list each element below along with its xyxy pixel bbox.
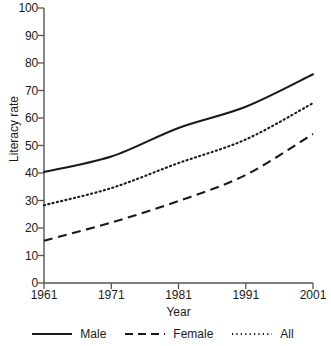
x-tick-label: 1981 — [153, 288, 205, 302]
y-tick-label: 100 — [4, 2, 38, 14]
legend-item-all: All — [231, 328, 293, 340]
legend-swatch-dashed-icon — [124, 329, 166, 339]
legend-label: Female — [173, 328, 213, 340]
legend-label: Male — [80, 328, 106, 340]
legend-item-male: Male — [31, 328, 106, 340]
x-axis-tick-labels: 1961 1971 1981 1991 2001 — [0, 288, 325, 304]
y-axis-title: Literacy rate — [7, 79, 21, 179]
x-tick-label: 1961 — [18, 288, 70, 302]
legend-item-female: Female — [124, 328, 213, 340]
legend-label: All — [280, 328, 293, 340]
series-line-all — [44, 103, 313, 205]
x-axis-title: Year — [44, 305, 313, 319]
x-tick-label: 1991 — [220, 288, 272, 302]
y-tick-label: 20 — [4, 222, 38, 234]
legend-swatch-dotted-icon — [231, 329, 273, 339]
y-tick-label: 10 — [4, 250, 38, 262]
chart-legend: Male Female All — [0, 324, 325, 344]
x-tick-label: 2001 — [287, 288, 331, 302]
series-line-female — [44, 134, 313, 241]
x-tick-label: 1971 — [85, 288, 137, 302]
y-tick-label: 30 — [4, 195, 38, 207]
y-axis-ticks — [38, 8, 44, 283]
series-line-male — [44, 74, 313, 172]
legend-swatch-solid-icon — [31, 329, 73, 339]
y-tick-label: 80 — [4, 57, 38, 69]
y-tick-label: 90 — [4, 30, 38, 42]
